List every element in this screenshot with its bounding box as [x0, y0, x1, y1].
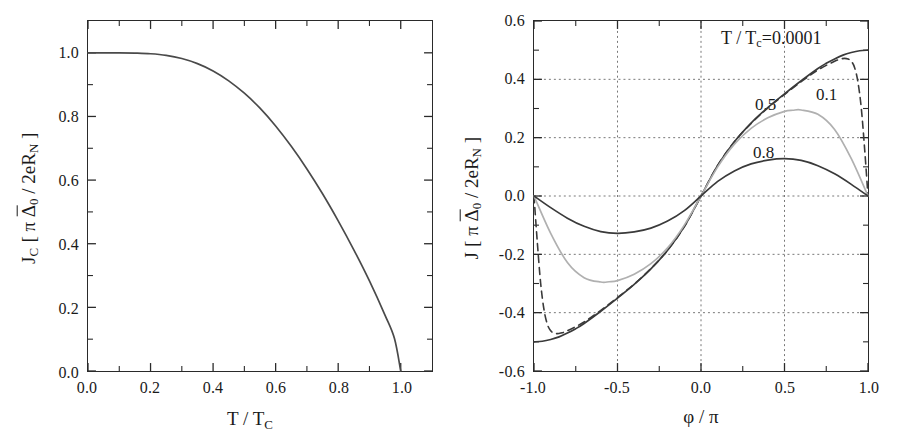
right-x-tick-1.0: 1.0: [844, 380, 894, 396]
right-x-tick-0.0: 0.0: [676, 380, 726, 396]
right-plot-canvas: [534, 21, 868, 371]
left-x-tick-0.4: 0.4: [188, 380, 238, 396]
right-y-tick-0.4: 0.4: [463, 71, 525, 87]
left-x-tick-1.0: 1.0: [377, 380, 427, 396]
delta-overbar: Δ: [18, 205, 40, 217]
left-y-axis-rest-sub: N: [26, 144, 41, 153]
left-plot-canvas: [88, 21, 432, 371]
left-x-tick-0.8: 0.8: [314, 380, 364, 396]
right-x-tick--0.5: -0.5: [592, 380, 642, 396]
left-x-tick-0.2: 0.2: [125, 380, 175, 396]
right-y-tick-0.0: 0.0: [463, 188, 525, 204]
right-x-tick-0.5: 0.5: [760, 380, 810, 396]
right-y-axis-delta: Δ: [461, 209, 482, 221]
right-plot-area: [533, 20, 869, 372]
left-y-tick-0.6: 0.6: [27, 173, 79, 189]
left-y-tick-0.0: 0.0: [27, 365, 79, 381]
right-y-tick--0.6: -0.6: [463, 364, 525, 380]
right-x-axis-title: φ / π: [631, 406, 771, 428]
left-x-tick-0.0: 0.0: [62, 380, 112, 396]
left-figure-panel: JC[ π Δ0 / 2eRN ] 1.0 0.8 0.6 0.4 0.2 0.…: [0, 0, 453, 448]
left-y-axis-delta: Δ: [18, 205, 39, 217]
right-x-tick--1.0: -1.0: [508, 380, 558, 396]
right-figure-panel: J[ π Δ0 / 2eRN ] 0.6 0.4 0.2 0.0 -0.2 -0…: [453, 0, 906, 448]
left-y-axis-symbol: J: [18, 257, 39, 264]
right-y-axis-open: [ π: [461, 221, 482, 246]
right-y-axis-rest-sub: N: [469, 148, 484, 157]
left-y-axis-close: ]: [18, 133, 39, 144]
series-Jc(T): [88, 53, 401, 371]
delta-overbar: Δ: [461, 209, 483, 221]
right-x-axis-num: φ / π: [683, 406, 718, 427]
left-x-axis-sub: C: [264, 417, 273, 432]
left-y-axis-title: JC[ π Δ0 / 2eRN ]: [18, 98, 43, 298]
left-y-tick-1.0: 1.0: [27, 45, 79, 61]
left-plot-area: [87, 20, 433, 372]
left-x-axis-num: T / T: [227, 408, 264, 429]
right-y-tick--0.4: -0.4: [463, 305, 525, 321]
left-y-tick-0.4: 0.4: [27, 237, 79, 253]
left-x-tick-0.6: 0.6: [251, 380, 301, 396]
left-x-axis-title: T / TC: [180, 408, 320, 433]
right-y-tick-0.6: 0.6: [463, 13, 525, 29]
left-y-tick-0.2: 0.2: [27, 301, 79, 317]
left-y-tick-0.8: 0.8: [27, 109, 79, 125]
right-y-tick--0.2: -0.2: [463, 247, 525, 263]
right-y-tick-0.2: 0.2: [463, 130, 525, 146]
